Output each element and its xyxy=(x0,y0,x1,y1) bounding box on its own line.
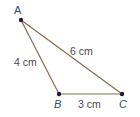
edge-bc-length-label: 3 cm xyxy=(78,98,101,110)
vertex-c-label: C xyxy=(119,98,127,110)
vertex-b-dot xyxy=(57,92,61,96)
vertex-b-label: B xyxy=(54,98,61,110)
edge-ab-length-label: 4 cm xyxy=(14,56,37,68)
vertex-a-dot xyxy=(19,18,23,22)
edge-ac-length-label: 6 cm xyxy=(70,45,93,57)
vertex-c-dot xyxy=(120,92,124,96)
vertex-a-label: A xyxy=(14,4,22,16)
triangle-diagram: A B C 4 cm 6 cm 3 cm xyxy=(0,0,140,117)
